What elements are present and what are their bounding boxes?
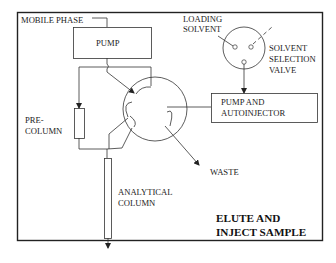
- precolumn-outlet-line: [79, 138, 107, 149]
- pump-autoinjector-label-2: AUTOINJECTOR: [221, 108, 285, 118]
- precolumn-label-1: PRE-: [25, 115, 44, 125]
- solvent-port-right: [249, 45, 253, 49]
- analytical-column-label-1: ANALYTICAL: [118, 187, 173, 197]
- analytical-column: [105, 159, 112, 239]
- loading-solvent-label-2: SOLVENT: [183, 24, 222, 34]
- loading-solvent-label-1: LOADING: [183, 14, 222, 24]
- injection-valve: [123, 77, 187, 141]
- solvent-selection-valve: [223, 27, 265, 69]
- solvent-dashed-inlet: [253, 27, 272, 44]
- solvent-port-left: [233, 45, 237, 49]
- mobile-phase-label: MOBILE PHASE: [21, 15, 83, 25]
- valve-to-column-line-b: [107, 128, 132, 149]
- precolumn-label-2: COLUMN: [25, 126, 63, 136]
- caption-line-2: INJECT SAMPLE: [216, 226, 306, 238]
- solvent-valve-label-1: SOLVENT: [269, 43, 308, 53]
- pump-to-valve-line: [107, 58, 134, 93]
- pump-label: PUMP: [96, 38, 120, 48]
- solvent-port-bottom: [242, 60, 246, 64]
- analytical-column-label-2: COLUMN: [118, 198, 156, 208]
- precolumn: [75, 109, 85, 139]
- hplc-diagram: MOBILE PHASE PUMP PRE- COLUMN WASTE ANAL…: [0, 0, 336, 263]
- waste-label: WASTE: [210, 167, 239, 177]
- loop-top-line: [79, 67, 151, 86]
- solvent-valve-label-2: SELECTION: [269, 54, 317, 64]
- pump-autoinjector-label-1: PUMP AND: [221, 97, 264, 107]
- valve-channel-left: [126, 102, 132, 117]
- valve-to-column-line-a: [109, 118, 128, 149]
- solvent-valve-label-3: VALVE: [269, 65, 296, 75]
- mobile-phase-line: [92, 18, 107, 27]
- valve-channel-bottom: [130, 116, 135, 127]
- valve-channel-top: [136, 87, 151, 94]
- valve-channel-right: [167, 111, 172, 126]
- caption-line-1: ELUTE AND: [216, 212, 280, 224]
- waste-line: [165, 126, 199, 165]
